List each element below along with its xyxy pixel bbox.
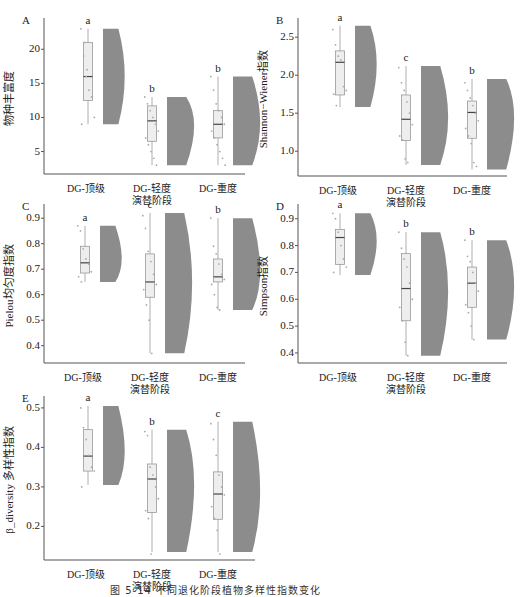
box: [336, 51, 345, 95]
density-cloud: [421, 232, 448, 355]
y-tick-label: 0.2: [12, 519, 40, 531]
y-tick-label: 10: [12, 110, 40, 122]
panel-letter: E: [22, 392, 29, 404]
significance-letter: b: [147, 415, 157, 427]
y-tick-label: 0.6: [266, 292, 294, 304]
significance-letter: a: [335, 11, 345, 23]
y-tick-label: 1.5: [266, 106, 294, 118]
box: [214, 472, 223, 519]
panel-letter: A: [22, 14, 30, 26]
significance-letter: a: [83, 391, 93, 403]
y-tick-label: 0.8: [266, 239, 294, 251]
significance-letter: a: [83, 14, 93, 26]
box: [148, 464, 157, 513]
y-tick-label: 0.7: [266, 265, 294, 277]
y-tick-label: 0.5: [266, 319, 294, 331]
significance-letter: b: [401, 217, 411, 229]
y-tick-label: 1.0: [266, 144, 294, 156]
box: [81, 246, 90, 273]
significance-letter: a: [80, 211, 90, 223]
panel-b: 1.01.52.02.5BShannon−Wiener指数aDG-顶级cDG-轻…: [262, 0, 512, 195]
panel-letter: C: [22, 200, 29, 212]
density-cloud: [165, 213, 192, 353]
y-tick-label: 0.4: [12, 440, 40, 452]
panel-letter: D: [276, 200, 284, 212]
y-axis-label: β_diversity 多样性指数: [0, 405, 16, 555]
significance-letter: c: [401, 51, 411, 63]
plot-area: [0, 0, 250, 195]
y-axis-label: Simpson指数: [254, 211, 270, 361]
figure-caption: 图 5-14 不同退化阶段植物多样性指数变化: [110, 582, 321, 597]
significance-letter: c: [213, 407, 223, 419]
y-tick-label: 0.9: [12, 211, 40, 223]
y-axis-label: Pielou均匀度指数: [0, 211, 16, 361]
significance-letter: b: [213, 62, 223, 74]
y-tick-label: 0.8: [12, 237, 40, 249]
y-axis-label: Shannon−Wiener指数: [254, 24, 270, 174]
box: [468, 101, 477, 138]
panel-e: 0.20.30.40.5Eβ_diversity 多样性指数aDG-顶级bDG-…: [0, 388, 260, 583]
y-tick-label: 0.4: [12, 339, 40, 351]
y-tick-label: 0.7: [12, 262, 40, 274]
y-tick-label: 0.3: [12, 480, 40, 492]
y-tick-label: 0.4: [266, 346, 294, 358]
density-cloud: [487, 79, 514, 169]
x-tick-label: DG-重度: [178, 369, 258, 384]
plot-area: [262, 0, 512, 195]
y-axis-label: 物种丰富度: [0, 23, 16, 173]
significance-letter: c: [145, 198, 155, 210]
y-tick-label: 15: [12, 76, 40, 88]
box: [468, 267, 477, 307]
y-tick-label: 0.6: [12, 288, 40, 300]
box: [84, 42, 93, 100]
panel-c: 0.40.50.60.70.80.9CPielou均匀度指数aDG-顶级cDG-…: [0, 196, 250, 391]
significance-letter: b: [147, 82, 157, 94]
box: [84, 430, 93, 471]
density-cloud: [167, 430, 194, 552]
panel-letter: B: [276, 14, 283, 26]
density-cloud: [100, 226, 122, 282]
density-cloud: [355, 26, 377, 107]
box: [214, 259, 223, 282]
density-cloud: [103, 406, 125, 485]
y-tick-label: 2.5: [266, 30, 294, 42]
y-tick-label: 0.5: [12, 313, 40, 325]
density-cloud: [167, 97, 194, 165]
y-tick-label: 5: [12, 145, 40, 157]
density-cloud: [103, 29, 125, 124]
y-tick-label: 20: [12, 42, 40, 54]
panel-d: 0.40.50.60.70.80.9DSimpson指数aDG-顶级bDG-轻度…: [262, 196, 512, 391]
box: [402, 254, 411, 321]
density-cloud: [421, 66, 448, 165]
panel-a: 5101520A物种丰富度aDG-顶级bDG-轻度bDG-重度演替阶段: [0, 0, 250, 195]
significance-letter: a: [335, 198, 345, 210]
x-axis-title: 演替阶段: [366, 381, 446, 396]
y-tick-label: 0.9: [266, 212, 294, 224]
significance-letter: b: [467, 64, 477, 76]
density-cloud: [355, 213, 377, 275]
box: [146, 254, 155, 297]
density-cloud: [487, 240, 514, 339]
density-cloud: [233, 422, 260, 552]
y-tick-label: 2.0: [266, 68, 294, 80]
significance-letter: b: [467, 225, 477, 237]
significance-letter: b: [213, 203, 223, 215]
